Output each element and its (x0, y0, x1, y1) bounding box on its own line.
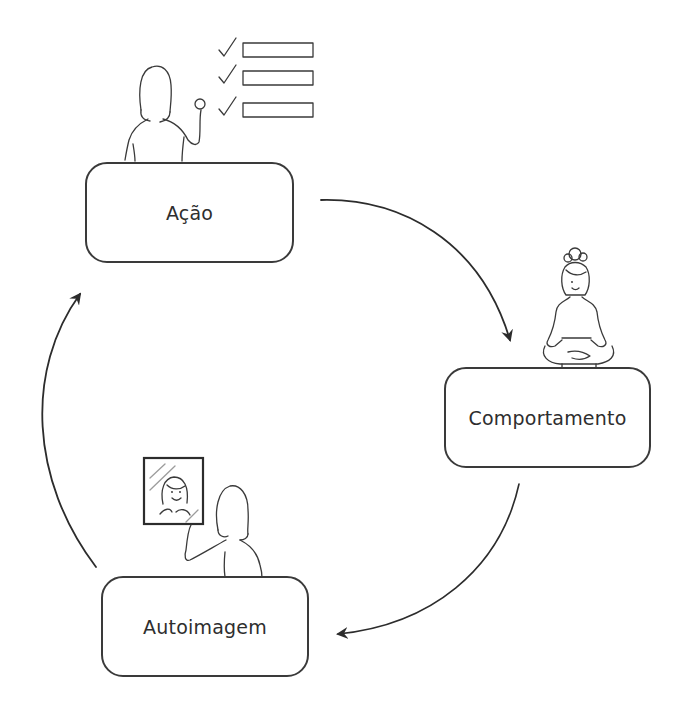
woman-raising-fist-icon (125, 66, 205, 161)
arrow-autoimagem-to-acao (42, 294, 96, 567)
checklist-icon (219, 38, 313, 117)
node-label-autoimagem: Autoimagem (143, 616, 267, 638)
arrow-acao-to-comportamento (321, 200, 510, 340)
woman-with-mirror-icon (144, 458, 262, 578)
arrow-comportamento-to-autoimagem (338, 484, 519, 634)
node-label-comportamento: Comportamento (469, 407, 627, 429)
node-acao: Ação (85, 162, 294, 263)
node-autoimagem: Autoimagem (101, 576, 309, 677)
woman-meditating-icon (543, 248, 613, 368)
node-label-acao: Ação (166, 202, 213, 224)
node-comportamento: Comportamento (444, 367, 651, 468)
